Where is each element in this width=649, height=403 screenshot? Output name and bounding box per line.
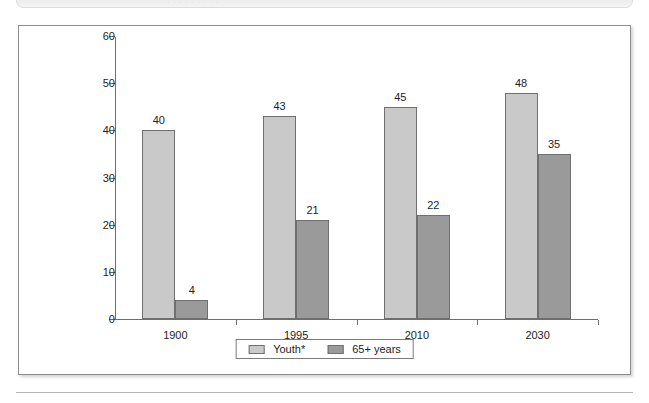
legend-item-older[interactable]: 65+ years [327, 343, 401, 355]
y-axis-tick-label: 0 [109, 313, 115, 325]
bottom-divider [16, 392, 633, 393]
bar-older[interactable]: 35 [538, 154, 571, 319]
legend-label: Youth* [273, 343, 305, 355]
x-axis-category-label: 1900 [163, 329, 187, 341]
bar-value-label: 45 [394, 91, 406, 103]
bar-group: 48352030 [505, 93, 571, 319]
bar-group: 4041900 [142, 130, 208, 319]
y-axis-tick-label: 40 [103, 124, 115, 136]
bar-value-label: 21 [307, 204, 319, 216]
bar-older[interactable]: 22 [417, 215, 450, 319]
legend-label: 65+ years [352, 343, 401, 355]
bar-youth[interactable]: 43 [263, 116, 296, 319]
y-axis-tick: 30 [115, 178, 116, 179]
legend-item-youth[interactable]: Youth* [248, 343, 305, 355]
plot-area: 0102030405060 40419004321199545222010483… [115, 37, 598, 320]
y-axis-tick-label: 60 [103, 30, 115, 42]
y-axis-tick-label: 30 [103, 172, 115, 184]
y-axis-tick: 20 [115, 225, 116, 226]
x-axis-category-label: 2030 [525, 329, 549, 341]
bar-value-label: 40 [153, 114, 165, 126]
bar-value-label: 4 [189, 284, 195, 296]
legend-swatch-icon [327, 345, 343, 354]
bar-group: 45222010 [384, 107, 450, 319]
bar-value-label: 43 [274, 100, 286, 112]
x-axis-tick-mark [598, 320, 599, 325]
y-axis-tick: 10 [115, 272, 116, 273]
y-axis-tick: 0 [115, 319, 116, 320]
bar-value-label: 48 [515, 77, 527, 89]
y-axis-tick-label: 20 [103, 219, 115, 231]
bar-youth[interactable]: 40 [142, 130, 175, 319]
bar-youth[interactable]: 45 [384, 107, 417, 319]
x-axis-tick-mark [236, 320, 237, 325]
banner-ghost-text: · · · · · · · · · [167, 0, 219, 7]
y-axis-tick: 50 [115, 83, 116, 84]
y-axis-tick: 60 [115, 36, 116, 37]
chart-legend: Youth*65+ years [235, 339, 414, 359]
bar-group: 43211995 [263, 116, 329, 319]
y-axis-line [115, 37, 116, 320]
x-axis-tick-mark [357, 320, 358, 325]
bar-value-label: 22 [427, 199, 439, 211]
y-axis-tick-label: 10 [103, 266, 115, 278]
x-axis-tick-mark [477, 320, 478, 325]
bar-older[interactable]: 21 [296, 220, 329, 319]
y-axis-tick: 40 [115, 130, 116, 131]
bar-older[interactable]: 4 [175, 300, 208, 319]
bar-youth[interactable]: 48 [505, 93, 538, 319]
y-axis-tick-label: 50 [103, 77, 115, 89]
chart-figure-frame: 0102030405060 40419004321199545222010483… [18, 25, 631, 375]
bar-value-label: 35 [548, 138, 560, 150]
page-banner: · · · · · · · · · [16, 0, 633, 8]
legend-swatch-icon [248, 345, 264, 354]
